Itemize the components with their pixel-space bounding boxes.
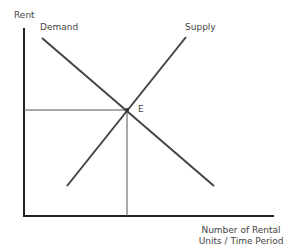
supply-label: Supply: [185, 22, 216, 32]
y-axis-label: Rent: [14, 10, 35, 20]
x-axis-label-line1: Number of Rental: [196, 225, 286, 236]
demand-curve: [42, 38, 214, 186]
x-axis-label: Number of Rental Units / Time Period: [196, 225, 286, 247]
equilibrium-point: [125, 108, 129, 112]
supply-demand-diagram: [0, 0, 292, 251]
demand-label: Demand: [40, 22, 78, 32]
x-axis-label-line2: Units / Time Period: [196, 236, 286, 247]
equilibrium-label: E: [138, 104, 144, 114]
